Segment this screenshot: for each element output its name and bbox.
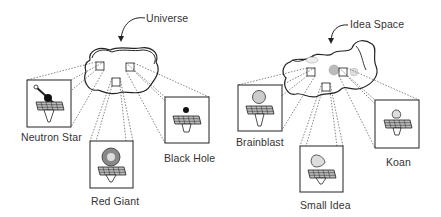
black-hole-label: Black Hole (164, 152, 215, 164)
koan-box (375, 100, 419, 148)
idea-space-label: Idea Space (350, 18, 404, 30)
neutron-star-label: Neutron Star (21, 131, 82, 143)
neutron-star-box (27, 80, 71, 127)
brainblast-box (238, 85, 282, 131)
universe-arrow (121, 18, 145, 40)
koan-label: Koan (386, 156, 411, 168)
universe-blob (85, 48, 158, 94)
small-idea-label: Small Idea (300, 199, 351, 211)
diagram-canvas (0, 0, 441, 217)
idea-space-arrow (331, 25, 348, 42)
small-idea-box (300, 146, 343, 192)
red-giant-box (90, 141, 133, 188)
red-giant-label: Red Giant (91, 195, 139, 207)
brainblast-label: Brainblast (236, 136, 284, 148)
universe-label: Universe (146, 12, 188, 24)
black-hole-box (165, 97, 209, 143)
